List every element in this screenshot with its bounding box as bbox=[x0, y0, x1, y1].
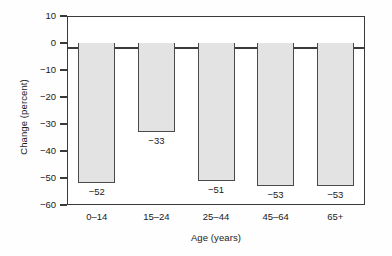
bar bbox=[78, 43, 115, 183]
y-axis-tick bbox=[60, 42, 67, 43]
y-axis-tick-label: −50 bbox=[16, 172, 56, 183]
y-axis-tick bbox=[60, 69, 67, 70]
bar bbox=[257, 43, 294, 186]
y-axis-tick bbox=[60, 150, 67, 151]
y-axis-tick bbox=[60, 15, 67, 16]
y-axis-title: Change (percent) bbox=[18, 22, 32, 212]
y-axis-tick-label: −60 bbox=[16, 199, 56, 210]
x-axis-title: Age (years) bbox=[67, 232, 365, 243]
y-axis-tick-label: −20 bbox=[16, 91, 56, 102]
y-axis-tick-label: −40 bbox=[16, 145, 56, 156]
y-axis-tick bbox=[60, 177, 67, 178]
bar-value-label: −53 bbox=[305, 189, 365, 200]
bar bbox=[317, 43, 354, 186]
bar-chart-figure: Change (percent) 100−10−20−30−40−50−60 −… bbox=[0, 0, 392, 256]
bar-value-label: −51 bbox=[186, 184, 246, 195]
bar bbox=[198, 43, 235, 181]
y-axis-tick bbox=[60, 123, 67, 124]
y-axis-tick bbox=[60, 204, 67, 205]
y-axis-tick-label: −10 bbox=[16, 64, 56, 75]
bar-value-label: −33 bbox=[126, 135, 186, 146]
y-axis-tick-label: 10 bbox=[16, 10, 56, 21]
bar-value-label: −52 bbox=[67, 186, 127, 197]
y-axis-tick-label: −30 bbox=[16, 118, 56, 129]
x-axis-category-label: 65+ bbox=[300, 211, 370, 222]
bar bbox=[138, 43, 175, 132]
y-axis-tick-label: 0 bbox=[16, 37, 56, 48]
y-axis-tick bbox=[60, 96, 67, 97]
bar-value-label: −53 bbox=[246, 189, 306, 200]
